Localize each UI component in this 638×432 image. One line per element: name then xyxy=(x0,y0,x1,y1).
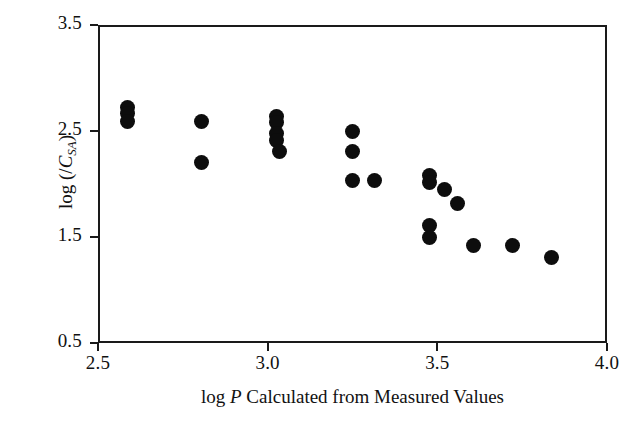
data-point xyxy=(437,182,452,197)
y-tick xyxy=(90,130,98,132)
data-point xyxy=(505,238,520,253)
x-tick-label: 3.0 xyxy=(233,352,303,374)
scatter-plot-figure: 2.53.03.54.0 3.52.51.50.5 log P Calculat… xyxy=(0,0,638,432)
data-point xyxy=(367,173,382,188)
y-axis-label-italic-c: C xyxy=(55,156,76,169)
x-tick xyxy=(606,343,608,351)
x-tick xyxy=(436,343,438,351)
x-axis-label-italic-p: P xyxy=(230,386,242,407)
data-point xyxy=(194,155,209,170)
y-tick xyxy=(90,24,98,26)
y-tick-label: 0.5 xyxy=(18,330,82,352)
plot-frame xyxy=(98,25,607,343)
y-tick xyxy=(90,236,98,238)
y-axis-label-subscript: SA xyxy=(64,141,79,155)
data-point xyxy=(194,114,209,129)
x-tick xyxy=(97,343,99,351)
data-point xyxy=(422,230,437,245)
data-point xyxy=(345,144,360,159)
data-point xyxy=(450,196,465,211)
data-points-layer xyxy=(100,27,605,341)
x-tick-label: 4.0 xyxy=(572,352,638,374)
y-axis-label: log (/CSA) xyxy=(55,135,77,209)
data-point xyxy=(544,250,559,265)
x-axis-label: log P Calculated from Measured Values xyxy=(98,386,607,408)
data-point xyxy=(345,124,360,139)
y-tick xyxy=(90,342,98,344)
data-point xyxy=(345,173,360,188)
data-point xyxy=(272,144,287,159)
data-point xyxy=(466,238,481,253)
data-point xyxy=(120,114,135,129)
data-point xyxy=(422,175,437,190)
x-tick xyxy=(267,343,269,351)
y-axis-label-container: log (/CSA) xyxy=(53,13,79,331)
x-tick-label: 3.5 xyxy=(402,352,472,374)
x-tick-label: 2.5 xyxy=(63,352,133,374)
